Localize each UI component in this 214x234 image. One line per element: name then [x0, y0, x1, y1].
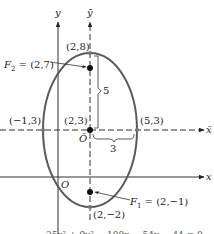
bottom-vertex-label: (2,−2) — [93, 209, 125, 220]
semi-major-label: 5 — [103, 85, 109, 96]
focus2-label: F2 = (2,7) — [3, 59, 54, 73]
y-axis-label: y — [54, 7, 61, 18]
focus2-point — [87, 65, 93, 71]
right-vertex-label: (5,3) — [140, 115, 164, 126]
center-point — [87, 127, 93, 133]
semi-major-bracket — [94, 56, 101, 128]
left-vertex-label: (−1,3) — [9, 115, 41, 126]
top-vertex-label: (2,8) — [66, 41, 90, 52]
x-axis-label: x — [206, 171, 212, 182]
ybar-axis-label: ȳ — [86, 7, 93, 18]
focus1-label: F1 = (2,−1) — [129, 196, 188, 210]
xbar-axis-label: x̄ — [206, 124, 212, 135]
bottom-vertex-point — [88, 205, 92, 209]
semi-minor-label: 3 — [110, 143, 116, 154]
focus1-point — [87, 189, 93, 195]
semi-minor-brace — [93, 134, 134, 142]
right-vertex-point — [135, 128, 139, 132]
new-origin-label: Ō — [79, 133, 87, 144]
left-vertex-point — [41, 128, 45, 132]
center-label: (2,3) — [64, 115, 88, 126]
ellipse-diagram: y x ȳ x̄ (2,8) F2 = (2,7) 5 (2,3) Ō (−… — [0, 0, 214, 234]
ellipse-equation: 25x² + 9y² − 100x − 54y − 44 = 0 — [46, 230, 203, 234]
origin-label: O — [61, 179, 69, 190]
